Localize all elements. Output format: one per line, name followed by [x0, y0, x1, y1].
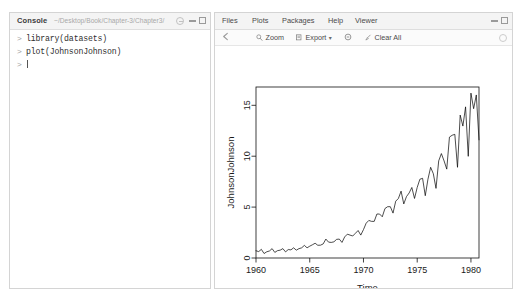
series-line — [256, 93, 479, 253]
maximize-icon[interactable] — [501, 17, 508, 24]
console-caret — [27, 60, 28, 68]
console-line: > library(datasets) — [17, 34, 210, 47]
maximize-icon[interactable] — [199, 17, 206, 24]
magnifier-icon — [256, 34, 263, 41]
plots-tabbar: Files Plots Packages Help Viewer — [215, 13, 512, 30]
chevron-down-icon: ▾ — [329, 34, 332, 41]
plot-frame — [256, 87, 479, 258]
console-output[interactable]: > library(datasets) > plot(JohnsonJohnso… — [10, 30, 210, 288]
console-input-line[interactable]: > — [17, 59, 210, 72]
refresh-icon[interactable] — [499, 34, 507, 42]
plots-panel: Files Plots Packages Help Viewer — [214, 12, 513, 289]
tab-files[interactable]: Files — [222, 16, 238, 25]
y-axis-tick-label: 10 — [242, 151, 252, 161]
console-header: Console ~/Desktop/Book/Chapter-3/Chapter… — [10, 13, 210, 30]
zoom-label: Zoom — [266, 33, 284, 42]
r-logo-icon — [176, 17, 184, 25]
console-line: > plot(JohnsonJohnson) — [17, 47, 210, 60]
console-window-buttons — [189, 17, 206, 24]
minimize-icon[interactable] — [189, 20, 196, 22]
console-title: Console — [17, 16, 47, 25]
johnsonjohnson-line-chart: 19601965197019751980051015TimeJohnsonJoh… — [215, 47, 512, 288]
plots-toolbar: Zoom Export ▾ — [215, 30, 512, 46]
plots-window-buttons — [491, 17, 508, 24]
console-prompt-icon: > — [17, 47, 26, 56]
clear-all-label: Clear All — [375, 33, 402, 42]
x-axis-title: Time — [357, 282, 378, 288]
x-axis-tick-label: 1965 — [300, 265, 320, 275]
y-axis-title: JohnsonJohnson — [225, 137, 236, 209]
export-button[interactable]: Export ▾ — [296, 33, 332, 42]
back-arrow-icon[interactable] — [221, 32, 230, 41]
tab-viewer[interactable]: Viewer — [355, 16, 377, 25]
clear-all-button[interactable]: Clear All — [365, 33, 401, 42]
y-axis-tick-label: 0 — [242, 255, 252, 260]
remove-plot-icon[interactable] — [344, 33, 352, 41]
tab-packages[interactable]: Packages — [282, 16, 314, 25]
console-command: library(datasets) — [26, 34, 107, 43]
broom-icon — [365, 34, 372, 41]
console-prompt-icon: > — [17, 34, 26, 43]
minimize-icon[interactable] — [491, 20, 498, 22]
export-icon — [296, 34, 303, 41]
y-axis-tick-label: 15 — [242, 100, 252, 110]
console-prompt-icon: > — [17, 60, 26, 69]
y-axis-tick-label: 5 — [242, 205, 252, 210]
plot-canvas: 19601965197019751980051015TimeJohnsonJoh… — [215, 47, 512, 288]
tab-help[interactable]: Help — [328, 16, 343, 25]
console-panel: Console ~/Desktop/Book/Chapter-3/Chapter… — [9, 12, 211, 289]
console-command: plot(JohnsonJohnson) — [26, 47, 121, 56]
rstudio-window: Console ~/Desktop/Book/Chapter-3/Chapter… — [0, 0, 522, 306]
export-label: Export — [306, 33, 327, 42]
console-working-directory[interactable]: ~/Desktop/Book/Chapter-3/Chapter3/ — [54, 17, 164, 24]
tab-plots[interactable]: Plots — [252, 16, 268, 25]
x-axis-tick-label: 1980 — [461, 265, 481, 275]
zoom-button[interactable]: Zoom — [256, 33, 284, 42]
x-axis-tick-label: 1975 — [407, 265, 427, 275]
x-axis-tick-label: 1960 — [246, 265, 266, 275]
x-axis-tick-label: 1970 — [353, 265, 373, 275]
